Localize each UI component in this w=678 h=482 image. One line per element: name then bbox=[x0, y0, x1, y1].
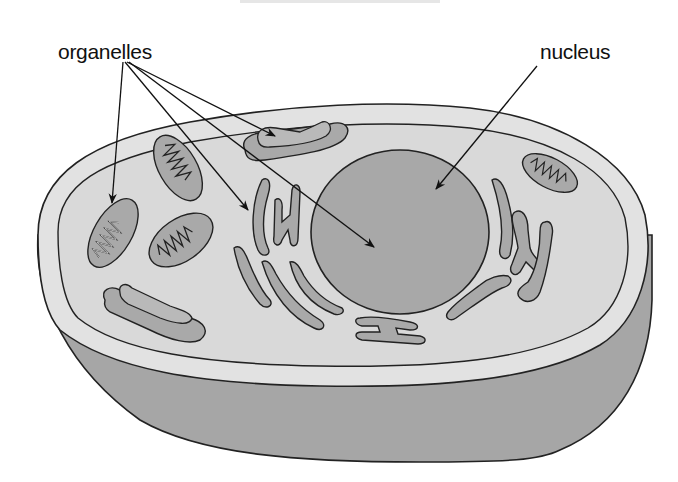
cell-diagram bbox=[0, 0, 678, 482]
label-organelles: organelles bbox=[58, 40, 152, 64]
label-nucleus: nucleus bbox=[540, 40, 610, 64]
nucleus bbox=[311, 150, 489, 314]
